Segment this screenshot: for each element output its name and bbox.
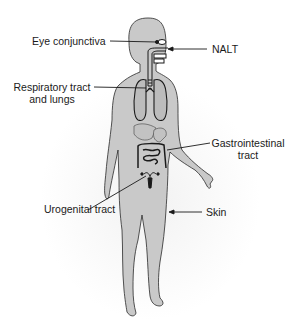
label-respiratory-line2: and lungs	[10, 93, 94, 105]
label-respiratory-line1: Respiratory tract	[10, 81, 94, 93]
label-nalt: NALT	[212, 43, 238, 55]
label-gi-line1: Gastrointestinal	[208, 137, 288, 149]
label-eye-conjunctiva: Eye conjunctiva	[32, 35, 106, 47]
label-gastrointestinal: Gastrointestinal tract	[208, 137, 288, 161]
body-diagram: Eye conjunctiva NALT Respiratory tract a…	[0, 0, 296, 323]
label-respiratory: Respiratory tract and lungs	[10, 81, 94, 105]
label-gi-line2: tract	[208, 149, 288, 161]
body-illustration	[0, 0, 296, 323]
label-skin: Skin	[206, 206, 226, 218]
label-urogenital: Urogenital tract	[44, 203, 115, 215]
